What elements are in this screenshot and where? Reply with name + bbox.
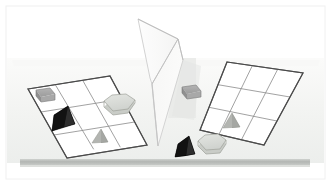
scene-container: Two-board spatial reference task Two 3x3… — [0, 0, 331, 185]
table-front-edge — [20, 159, 310, 165]
scene-render: Two-board spatial reference task Two 3x3… — [0, 0, 331, 185]
table-edge-shadow — [20, 165, 310, 167]
